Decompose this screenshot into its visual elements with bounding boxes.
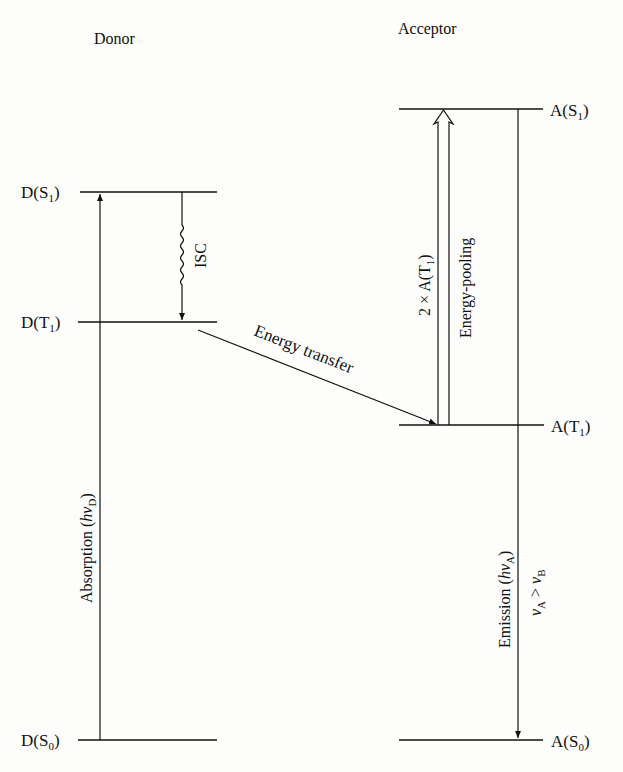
label-a-t1: A(T1) (551, 417, 591, 438)
two-a-t1-label: 2 × A(T1) (416, 254, 436, 316)
absorption-label: Absorption (hνD) (78, 493, 98, 603)
energy-transfer-label: Energy transfer (252, 321, 357, 377)
label-a-s1: A(S1) (550, 101, 589, 122)
label-d-t1: D(T1) (21, 313, 61, 334)
label-d-s1: D(S1) (21, 183, 60, 204)
donor-title: Donor (94, 30, 136, 47)
acceptor-title: Acceptor (398, 20, 457, 38)
energy-level-diagram: Donor Acceptor D(S1) D(T1) D(S0) Absorpt… (0, 0, 623, 772)
isc-arrow (181, 192, 184, 320)
isc-label: ISC (192, 243, 209, 268)
energy-pooling-label: Energy-pooling (457, 238, 475, 338)
energy-pooling-arrow (434, 110, 453, 425)
frequency-relation-label: νA > νB (527, 569, 547, 616)
label-d-s0: D(S0) (21, 731, 60, 752)
emission-label: Emission (hνA) (496, 551, 516, 648)
label-a-s0: A(S0) (551, 732, 590, 753)
